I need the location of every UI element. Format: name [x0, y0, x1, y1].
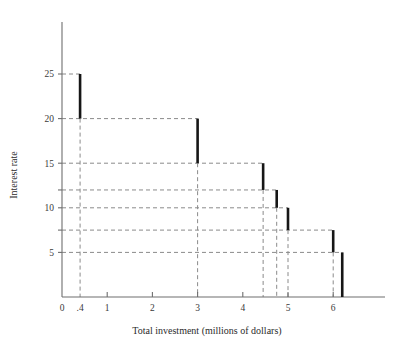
x-tick-label-0.4: .4 [77, 303, 84, 313]
x-tick-label-1: 1 [105, 303, 110, 313]
y-tick-label-10: 10 [45, 203, 55, 213]
y-axis-title: Interest rate [8, 151, 19, 199]
x-tick-label-6: 6 [331, 303, 336, 313]
y-tick-label-20: 20 [45, 114, 55, 124]
y-tick-label-25: 25 [45, 69, 55, 79]
x-tick-label-4: 4 [240, 303, 245, 313]
x-tick-label-5: 5 [286, 303, 291, 313]
x-axis-title: Total investment (millions of dollars) [132, 325, 281, 337]
x-tick-label-3: 3 [195, 303, 200, 313]
y-tick-label-5: 5 [49, 248, 54, 258]
y-tick-label-15: 15 [45, 159, 55, 169]
x-tick-label-2: 2 [150, 303, 155, 313]
investment-interest-rate-step-chart: 510152025 0.4123456 Total investment (mi… [0, 0, 395, 351]
chart-background [0, 0, 395, 351]
chart-figure: 510152025 0.4123456 Total investment (mi… [0, 0, 395, 351]
x-tick-label-0: 0 [60, 303, 65, 313]
